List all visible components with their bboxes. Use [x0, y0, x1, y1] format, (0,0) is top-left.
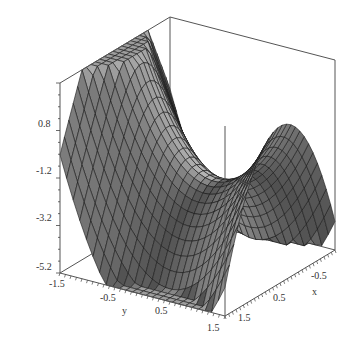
y-axis-label: y — [122, 305, 127, 316]
x-axis-label: x — [312, 286, 317, 297]
x-tick-label: -0.5 — [311, 270, 327, 281]
z-tick-label: 0.8 — [38, 118, 51, 129]
z-tick-label: -1.2 — [36, 165, 52, 176]
y-tick-label: 1.5 — [207, 322, 220, 333]
z-tick-label: -5.2 — [36, 261, 52, 272]
surface-mesh — [60, 30, 335, 311]
y-tick-label: -0.5 — [100, 292, 116, 303]
x-tick-label: 0.5 — [273, 292, 286, 303]
y-tick-label: -1.5 — [49, 278, 65, 289]
x-tick-label: 1.5 — [238, 312, 251, 323]
z-tick-label: -3.2 — [36, 212, 52, 223]
surface-plot[interactable]: 0.8 -1.2 -3.2 -5.2 -1.5 -0.5 y 0.5 1.5 1… — [0, 0, 354, 341]
y-tick-label: 0.5 — [155, 305, 168, 316]
